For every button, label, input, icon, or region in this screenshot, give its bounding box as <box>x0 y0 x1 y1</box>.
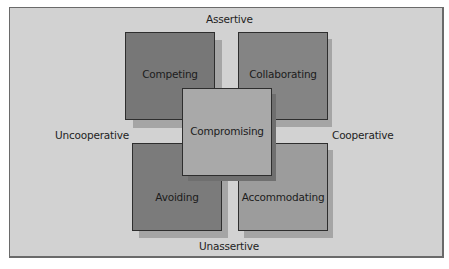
axis-label-unassertive: Unassertive <box>199 240 259 252</box>
style-label-collaborating: Collaborating <box>249 68 317 80</box>
style-label-compromising: Compromising <box>190 125 264 137</box>
style-label-competing: Competing <box>142 68 198 80</box>
axis-label-cooperative: Cooperative <box>332 129 394 141</box>
style-label-accommodating: Accommodating <box>242 191 325 203</box>
style-label-avoiding: Avoiding <box>155 191 198 203</box>
axis-label-uncooperative: Uncooperative <box>55 129 129 141</box>
style-box-compromising: Compromising <box>182 88 272 176</box>
axis-label-assertive: Assertive <box>206 13 253 25</box>
